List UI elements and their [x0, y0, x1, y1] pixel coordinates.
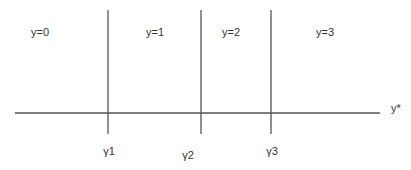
axis-label: y*: [391, 102, 402, 114]
region-label-3: y=3: [316, 26, 334, 38]
region-label-1: y=1: [146, 26, 164, 38]
ordinal-threshold-diagram: y=0 y=1 y=2 y=3 γ1 γ2 γ3 y*: [0, 0, 411, 170]
threshold-label-2: γ2: [182, 149, 194, 161]
threshold-label-3: γ3: [266, 145, 278, 157]
threshold-label-1: γ1: [103, 145, 115, 157]
region-label-2: y=2: [222, 26, 240, 38]
region-label-0: y=0: [31, 26, 49, 38]
